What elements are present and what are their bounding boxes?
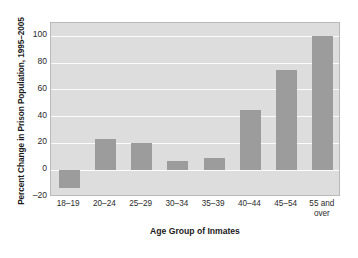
bar	[59, 170, 80, 187]
x-tick-label: 30–34	[159, 199, 195, 209]
y-tick-label: 40	[3, 111, 47, 120]
bar	[312, 36, 333, 170]
gridline-100	[51, 36, 339, 37]
bar	[276, 70, 297, 170]
x-axis-title: Age Group of Inmates	[50, 226, 340, 236]
x-tick-label: 40–44	[231, 199, 267, 209]
y-tick-label: 20	[3, 137, 47, 146]
y-tick-label: 60	[3, 84, 47, 93]
y-tick-label: –20	[3, 191, 47, 200]
bar	[204, 158, 225, 170]
y-tick-label: 0	[3, 164, 47, 173]
x-tick-label: 20–24	[86, 199, 122, 209]
bar	[167, 161, 188, 170]
y-axis-tick-labels: 100806040200–20	[0, 22, 47, 196]
x-axis-tick-labels: 18–1920–2425–2930–3435–3940–4445–5455 an…	[50, 199, 340, 225]
bar	[131, 143, 152, 170]
plot-area	[50, 22, 340, 196]
gridline--20	[51, 197, 339, 198]
bar	[240, 110, 261, 170]
y-tick-label: 100	[3, 30, 47, 39]
chart-figure: Percent Change in Prison Population, 199…	[0, 0, 358, 258]
x-tick-label: 45–54	[268, 199, 304, 209]
x-tick-label: 25–29	[123, 199, 159, 209]
gridline-80	[51, 63, 339, 64]
x-tick-label: 55 and over	[304, 199, 340, 218]
y-tick-label: 80	[3, 57, 47, 66]
x-tick-label: 35–39	[195, 199, 231, 209]
bar	[95, 139, 116, 170]
x-tick-label: 18–19	[50, 199, 86, 209]
